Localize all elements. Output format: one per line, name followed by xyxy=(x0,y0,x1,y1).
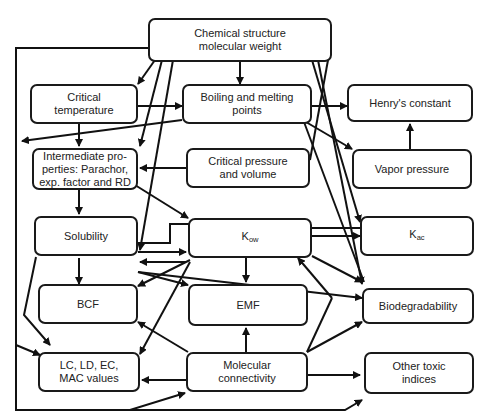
node-kow: Kow xyxy=(188,218,312,258)
node-biodegradability: Biodegradability xyxy=(362,288,474,324)
node-kac: Kac xyxy=(360,216,474,256)
node-label: Molecular connectivity xyxy=(218,359,275,385)
node-label: Intermediate pro- perties: Parachor, exp… xyxy=(39,150,131,189)
node-label: Critical temperature xyxy=(54,91,113,117)
node-chemical-structure: Chemical structure molecular weight xyxy=(148,18,332,62)
node-label: Vapor pressure xyxy=(375,163,449,176)
node-solubility: Solubility xyxy=(34,216,138,256)
node-label: BCF xyxy=(77,298,99,311)
kac-subscript: ac xyxy=(417,233,425,242)
node-lc-ld-ec-mac: LC, LD, EC, MAC values xyxy=(38,352,140,392)
node-critical-temperature: Critical temperature xyxy=(30,84,138,124)
node-label: Kow xyxy=(242,230,259,246)
node-intermediate-properties: Intermediate pro- perties: Parachor, exp… xyxy=(32,148,138,190)
node-label: EMF xyxy=(236,299,259,312)
node-label: Chemical structure molecular weight xyxy=(194,27,286,53)
kow-main: K xyxy=(242,230,249,242)
node-label: Boiling and melting points xyxy=(201,91,294,117)
node-molecular-connectivity: Molecular connectivity xyxy=(186,352,308,392)
node-emf: EMF xyxy=(188,284,308,326)
node-label: Henry's constant xyxy=(369,97,451,110)
node-other-toxic-indices: Other toxic indices xyxy=(364,352,474,394)
node-henrys-constant: Henry's constant xyxy=(347,84,473,122)
kow-subscript: ow xyxy=(249,235,259,244)
kac-main: K xyxy=(409,228,416,240)
node-bcf: BCF xyxy=(38,284,138,324)
node-critical-pressure: Critical pressure and volume xyxy=(186,148,310,188)
node-vapor-pressure: Vapor pressure xyxy=(352,149,472,189)
node-label: Solubility xyxy=(64,230,108,243)
node-label: LC, LD, EC, MAC values xyxy=(59,359,118,385)
node-label: Kac xyxy=(409,228,424,244)
node-boiling-melting: Boiling and melting points xyxy=(182,84,312,124)
node-label: Other toxic indices xyxy=(392,360,445,386)
node-label: Biodegradability xyxy=(379,300,457,313)
node-label: Critical pressure and volume xyxy=(208,155,287,181)
